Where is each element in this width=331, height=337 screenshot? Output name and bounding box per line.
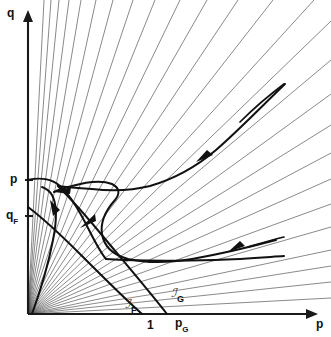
curve-label-JG-sub: G [177,294,184,304]
diagram-canvas [0,0,331,337]
curve-label-JF-sub: F [131,305,137,315]
ray [28,0,69,314]
axes [23,10,318,319]
y-tick-label-qF-sub: F [13,217,18,226]
x-tick-label-pG: pG [175,317,189,332]
curve-label-JF: ℐF [125,298,137,313]
ray [28,0,314,314]
x-tick-label-pG-sub: G [182,325,188,334]
ray [28,250,331,314]
phase-plane-figure: q p p qF 1 pG ℐF ℐG [0,0,331,337]
y-tick-label-qF: qF [6,209,18,224]
y-tick-label-p: p [10,173,17,185]
ray-fan [28,0,331,314]
curve-label-JG: ℐG [171,287,184,302]
ray [28,0,96,314]
x-axis-label: p [316,318,323,330]
ray [28,21,331,314]
y-axis-label: q [7,7,14,19]
x-tick-label-one: 1 [147,319,154,331]
y-axis-arrowhead [23,10,33,22]
ray [28,0,273,314]
